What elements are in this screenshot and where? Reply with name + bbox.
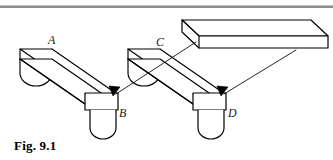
figure-caption: Fig. 9.1	[14, 138, 56, 154]
slab-top-face	[182, 20, 328, 36]
label-d: D	[227, 106, 237, 120]
block-d-support-cylinder	[198, 110, 224, 139]
label-b: B	[119, 106, 127, 120]
figure-page: A B C D Fig. 9.1	[0, 0, 333, 160]
ramp-right-assembly	[128, 49, 226, 139]
ramp-left-assembly	[20, 49, 118, 139]
arrow-line-to-d	[224, 50, 296, 94]
label-a: A	[47, 33, 56, 47]
block-b-support-cylinder	[90, 110, 116, 139]
figure-illustration: A B C D	[0, 0, 333, 160]
slab-top-right	[182, 20, 328, 48]
label-c: C	[156, 35, 165, 49]
